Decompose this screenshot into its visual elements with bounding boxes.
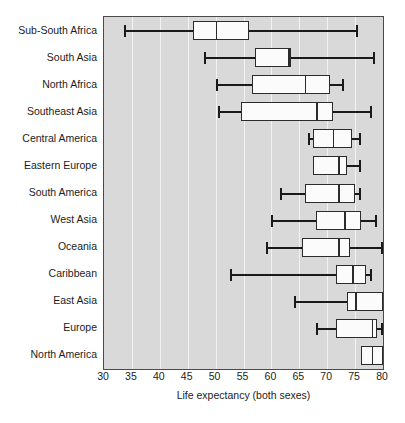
median-line	[344, 211, 346, 230]
whisker-low-cap	[124, 25, 126, 37]
box-iqr	[347, 292, 383, 311]
whisker-low-line	[294, 301, 347, 303]
box-row	[104, 152, 383, 179]
whisker-high-cap	[370, 106, 372, 118]
category-label-southeast-asia: Southeast Asia	[0, 105, 97, 117]
box-row	[104, 234, 383, 261]
category-label-east-asia: East Asia	[0, 294, 97, 306]
x-axis-tick-labels: 3035404550556065707580	[103, 370, 384, 386]
box-row	[104, 71, 383, 98]
box-row	[104, 125, 383, 152]
median-line	[372, 319, 374, 338]
whisker-high-cap	[381, 242, 383, 254]
x-tick-55: 55	[237, 370, 249, 382]
category-label-eastern-europe: Eastern Europe	[0, 159, 97, 171]
whisker-low-line	[280, 193, 305, 195]
x-tick-40: 40	[153, 370, 165, 382]
median-line	[352, 265, 354, 284]
whisker-low-line	[216, 84, 252, 86]
whisker-low-cap	[308, 133, 310, 145]
median-line	[216, 21, 218, 40]
x-tick-60: 60	[265, 370, 277, 382]
category-label-west-asia: West Asia	[0, 213, 97, 225]
whisker-high-line	[333, 111, 372, 113]
category-label-south-america: South America	[0, 186, 97, 198]
whisker-high-cap	[359, 133, 361, 145]
plot-area	[103, 16, 384, 370]
whisker-low-cap	[218, 106, 220, 118]
whisker-low-cap	[271, 215, 273, 227]
category-label-oceania: Oceania	[0, 240, 97, 252]
whisker-high-cap	[342, 79, 344, 91]
whisker-high-line	[291, 57, 375, 59]
box-row	[104, 315, 383, 342]
whisker-low-cap	[230, 269, 232, 281]
median-line	[372, 346, 374, 365]
box-iqr	[255, 48, 291, 67]
x-tick-35: 35	[125, 370, 137, 382]
x-tick-30: 30	[97, 370, 109, 382]
whisker-low-line	[271, 220, 316, 222]
median-line	[288, 48, 290, 67]
category-axis-labels: Sub-South AfricaSouth AsiaNorth AfricaSo…	[0, 16, 97, 368]
category-label-europe: Europe	[0, 321, 97, 333]
box-iqr	[241, 102, 333, 121]
x-tick-80: 80	[376, 370, 388, 382]
box-plot-chart: Sub-South AfricaSouth AsiaNorth AfricaSo…	[0, 0, 405, 423]
median-line	[305, 75, 307, 94]
category-label-central-america: Central America	[0, 132, 97, 144]
median-line	[316, 102, 318, 121]
whisker-low-line	[230, 274, 336, 276]
whisker-low-line	[124, 30, 194, 32]
whisker-high-cap	[359, 160, 361, 172]
whisker-low-line	[266, 247, 302, 249]
category-label-north-africa: North Africa	[0, 78, 97, 90]
whisker-low-cap	[216, 79, 218, 91]
x-tick-75: 75	[348, 370, 360, 382]
whisker-low-cap	[294, 296, 296, 308]
x-tick-45: 45	[181, 370, 193, 382]
whisker-high-cap	[359, 188, 361, 200]
box-row	[104, 17, 383, 44]
box-row	[104, 44, 383, 71]
whisker-high-line	[350, 247, 383, 249]
box-row	[104, 288, 383, 315]
category-label-north-america: North America	[0, 348, 97, 360]
box-iqr	[252, 75, 330, 94]
x-axis-title: Life expectancy (both sexes)	[103, 389, 384, 401]
x-tick-70: 70	[320, 370, 332, 382]
category-label-sub-south-africa: Sub-South Africa	[0, 24, 97, 36]
whisker-high-cap	[373, 52, 375, 64]
x-tick-50: 50	[209, 370, 221, 382]
whisker-low-cap	[280, 188, 282, 200]
box-iqr	[305, 184, 355, 203]
box-row	[104, 342, 383, 369]
box-iqr	[316, 211, 361, 230]
whisker-low-cap	[266, 242, 268, 254]
median-line	[338, 238, 340, 257]
median-line	[333, 129, 335, 148]
box-iqr	[302, 238, 349, 257]
box-iqr	[336, 265, 367, 284]
box-row	[104, 180, 383, 207]
box-iqr	[193, 21, 249, 40]
whisker-low-line	[204, 57, 254, 59]
whisker-high-cap	[370, 269, 372, 281]
box-row	[104, 261, 383, 288]
median-line	[338, 184, 340, 203]
category-label-south-asia: South Asia	[0, 51, 97, 63]
whisker-low-cap	[204, 52, 206, 64]
whisker-low-line	[218, 111, 240, 113]
median-line	[355, 292, 357, 311]
median-line	[338, 156, 340, 175]
box-row	[104, 207, 383, 234]
whisker-high-cap	[381, 323, 383, 335]
x-tick-65: 65	[292, 370, 304, 382]
box-row	[104, 98, 383, 125]
box-iqr	[313, 156, 346, 175]
category-label-caribbean: Caribbean	[0, 267, 97, 279]
whisker-low-line	[316, 328, 336, 330]
whisker-high-cap	[375, 215, 377, 227]
whisker-high-cap	[356, 25, 358, 37]
whisker-low-cap	[316, 323, 318, 335]
